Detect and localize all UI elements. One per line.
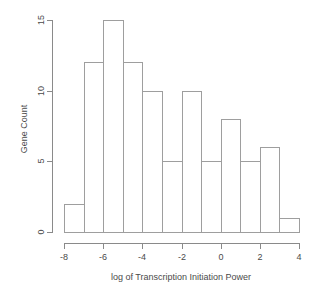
x-tick-label: -8 [60, 252, 68, 262]
y-tick-label: 15 [36, 15, 46, 25]
y-tick [47, 91, 52, 92]
x-axis-title: log of Transcription Initiation Power [111, 272, 251, 282]
x-tick [260, 243, 261, 249]
histogram-bar [64, 204, 85, 233]
x-tick [103, 243, 104, 249]
y-axis-title: Gene Count [19, 105, 29, 154]
y-tick [47, 20, 52, 21]
histogram-bar [279, 218, 300, 233]
histogram-bar [260, 147, 280, 233]
x-tick-label: -2 [178, 252, 186, 262]
x-tick [221, 243, 222, 249]
histogram-figure: Gene Count log of Transcription Initiati… [0, 0, 316, 297]
histogram-bar [84, 62, 104, 233]
x-tick-label: -6 [99, 252, 107, 262]
y-tick [47, 161, 52, 162]
y-tick-label: 10 [36, 86, 46, 96]
x-tick [142, 243, 143, 249]
histogram-bar [182, 91, 202, 233]
y-axis-line [52, 20, 53, 233]
histogram-bar [201, 161, 222, 233]
y-tick [47, 232, 52, 233]
x-tick-label: 0 [218, 252, 223, 262]
x-tick-label: 4 [296, 252, 301, 262]
histogram-bar [240, 161, 261, 233]
histogram-bar [103, 20, 124, 233]
histogram-bar [123, 62, 143, 233]
x-tick-label: -4 [138, 252, 146, 262]
y-tick-label: 5 [36, 158, 46, 163]
y-tick-label: 0 [36, 229, 46, 234]
histogram-bar [142, 91, 163, 233]
x-tick-label: 2 [257, 252, 262, 262]
x-tick [182, 243, 183, 249]
x-tick [64, 243, 65, 249]
histogram-bar [221, 119, 241, 233]
histogram-bar [162, 161, 183, 233]
x-tick [299, 243, 300, 249]
